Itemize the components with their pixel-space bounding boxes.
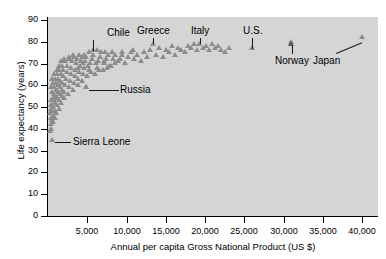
annotation-leader-line [200,38,201,44]
data-point-marker [92,71,98,76]
data-point-marker [119,49,125,54]
data-point-marker [153,52,159,57]
data-point-marker [52,115,58,120]
data-point-marker [56,106,62,111]
data-point-marker [102,49,108,54]
annotation-label-sierra-leone: Sierra Leone [73,136,130,147]
data-point-marker [188,45,194,50]
y-tick-mark [41,64,48,65]
data-point-marker [58,100,64,105]
x-tick-label: 20,000 [183,226,227,236]
y-tick-mark [41,42,48,43]
x-tick-mark [166,216,167,223]
data-point-marker [83,84,89,89]
y-tick-label: 10 [16,189,38,198]
x-tick-label: 5,000 [65,226,109,236]
y-tick-label: 90 [16,15,38,24]
annotation-label-russia: Russia [120,84,151,95]
data-point-marker [70,87,76,92]
x-tick-mark [284,216,285,223]
annotation-leader-line [93,40,94,51]
data-point-marker [147,47,153,52]
x-tick-label: 15,000 [144,226,188,236]
data-point-marker [79,78,85,83]
data-point-marker [172,52,178,57]
annotation-label-italy: Italy [191,25,209,36]
x-axis-line [47,216,378,217]
y-tick-mark [41,172,48,173]
y-tick-mark [41,20,48,21]
data-point-marker [206,47,212,52]
data-point-marker [156,45,162,50]
data-point-marker [182,49,188,54]
annotation-leader-line [153,38,154,44]
annotation-leader-line [89,90,119,91]
x-tick-label: 40,000 [340,226,384,236]
data-point-marker [160,54,166,59]
x-tick-mark [87,216,88,223]
data-point-marker [49,137,55,142]
scatter-chart-figure: 0102030405060708090 5,00010,00015,00020,… [0,0,386,259]
data-point-marker [93,60,99,65]
x-tick-mark [127,216,128,223]
y-axis-label: Life expectancy (years) [15,41,26,181]
data-point-marker [101,58,107,63]
data-point-marker [53,110,59,115]
x-tick-label: 25,000 [222,226,266,236]
data-point-marker [109,49,115,54]
data-point-marker [169,43,175,48]
annotation-leader-line [55,142,71,143]
data-point-marker [131,56,137,61]
data-point-marker [138,58,144,63]
data-point-marker [50,119,56,124]
data-point-marker [222,49,228,54]
data-point-marker [112,60,118,65]
annotation-leader-line [252,38,253,49]
x-axis-label: Annual per capita Gross National Product… [48,241,378,252]
annotation-label-chile: Chile [107,27,130,38]
annotation-label-u-s: U.S. [243,25,262,36]
y-tick-mark [41,151,48,152]
annotation-arrow-head [288,41,294,46]
annotation-leader-line [292,46,293,54]
x-tick-label: 10,000 [105,226,149,236]
x-tick-mark [323,216,324,223]
y-tick-mark [41,216,48,217]
x-tick-mark [205,216,206,223]
y-tick-mark [41,194,48,195]
x-tick-mark [244,216,245,223]
y-tick-mark [41,107,48,108]
x-tick-label: 35,000 [301,226,345,236]
data-point-marker [84,73,90,78]
annotation-label-japan: Japan [313,55,340,66]
data-point-marker [85,63,91,68]
data-point-marker [359,34,365,39]
data-point-marker [75,82,81,87]
data-point-marker [226,45,232,50]
data-point-marker [125,54,131,59]
x-tick-mark [362,216,363,223]
data-point-marker [134,52,140,57]
y-tick-label: 0 [16,211,38,220]
annotation-label-greece: Greece [137,25,170,36]
annotation-label-norway: Norway [275,55,309,66]
data-point-marker [61,95,67,100]
data-point-marker [166,49,172,54]
y-tick-mark [41,85,48,86]
data-point-marker [48,126,54,131]
x-tick-label: 30,000 [262,226,306,236]
data-point-marker [122,60,128,65]
data-point-marker [65,91,71,96]
data-point-marker [144,54,150,59]
